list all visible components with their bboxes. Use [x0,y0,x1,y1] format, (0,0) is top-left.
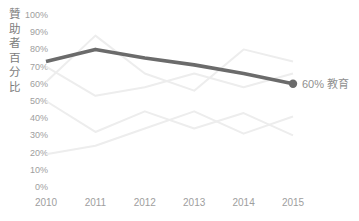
x-tick-label: 2010 [35,197,58,208]
x-tick-label: 2013 [183,197,206,208]
background-series-line [46,67,293,96]
x-tick-label: 2012 [134,197,157,208]
y-tick-label: 10% [30,165,48,175]
y-tick-label: 20% [30,148,48,158]
x-tick-label: 2014 [232,197,255,208]
y-tick-label: 60% [30,79,48,89]
x-tick-label: 2015 [282,197,305,208]
y-tick-label: 100% [25,10,48,20]
y-tick-label: 80% [30,44,48,54]
y-tick-label: 0% [35,182,48,192]
line-chart: 贊助者百分比 0%10%20%30%40%50%60%70%80%90%100%… [0,0,359,221]
y-tick-label: 40% [30,113,48,123]
x-tick-label: 2011 [85,197,107,208]
line-chart-svg: 0%10%20%30%40%50%60%70%80%90%100%2010201… [0,0,359,221]
endpoint-marker [289,80,297,88]
y-axis-title: 贊助者百分比 [6,8,22,95]
y-tick-label: 30% [30,130,48,140]
endpoint-label: 60% 教育 [302,77,349,90]
series-line-emphasis [46,49,293,83]
y-tick-label: 90% [30,27,48,37]
y-tick-label: 50% [30,96,48,106]
y-tick-label: 70% [30,62,48,72]
